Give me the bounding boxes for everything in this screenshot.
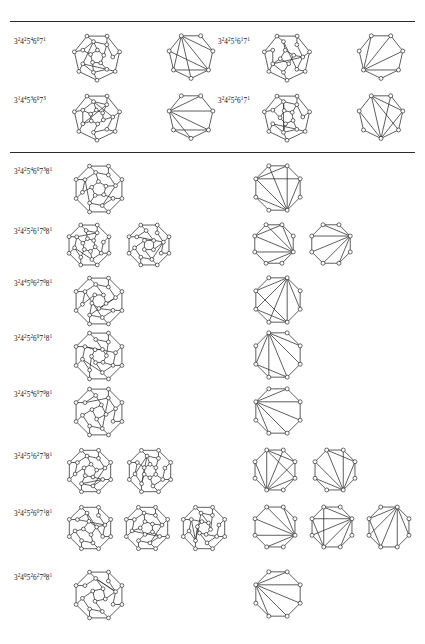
triangulation-graph	[305, 218, 357, 270]
polyhedral-graph	[62, 443, 118, 499]
triangulation-graph	[163, 88, 219, 144]
polyhedral-graph	[258, 28, 316, 86]
polyhedral-graph	[176, 500, 232, 556]
triangulation-graph	[308, 443, 362, 497]
polyhedral-graph	[68, 88, 126, 146]
face-vector-label: 3144536073	[14, 95, 46, 105]
face-vector-label: 324251627381	[14, 451, 52, 461]
polyhedral-graph	[122, 218, 176, 272]
triangulation-graph	[163, 28, 219, 84]
face-vector-label: 324252607181	[14, 333, 52, 343]
polyhedral-graph	[68, 325, 130, 387]
triangulation-graph	[362, 500, 416, 554]
face-vector-label: 324450627081	[14, 278, 52, 288]
polyhedral-graph	[68, 381, 130, 443]
polyhedral-graph	[62, 500, 118, 556]
triangulation-graph	[248, 158, 308, 218]
triangulation-graph	[248, 381, 308, 441]
polyhedral-graph	[62, 218, 116, 272]
polyhedral-graph	[258, 88, 316, 146]
triangulation-graph	[353, 88, 409, 144]
triangulation-graph	[248, 270, 308, 330]
polyhedral-graph	[68, 28, 126, 86]
section-divider-rule	[10, 152, 415, 153]
face-vector-label: 324254607381	[14, 166, 52, 176]
polyhedral-graph	[68, 564, 130, 626]
face-vector-label: 324252607181	[14, 508, 52, 518]
face-vector-label: 324254607081	[14, 389, 52, 399]
face-vector-label: 3242546071	[14, 36, 46, 46]
triangulation-graph	[305, 500, 359, 554]
triangulation-graph	[353, 28, 409, 84]
face-vector-label: 3242516171	[218, 36, 250, 46]
polyhedral-graph	[122, 443, 178, 499]
triangulation-graph	[248, 218, 300, 270]
face-vector-label: 324052627081	[14, 572, 52, 582]
polyhedral-graph	[68, 158, 130, 220]
top-rule	[10, 21, 415, 22]
triangulation-graph	[248, 443, 302, 497]
polyhedral-graph	[68, 270, 130, 332]
polyhedral-graph	[119, 500, 175, 556]
face-vector-label: 324252617081	[14, 226, 52, 236]
triangulation-graph	[248, 564, 308, 624]
triangulation-graph	[248, 325, 308, 385]
face-vector-label: 3242526171	[218, 95, 250, 105]
figure-plate: 3242546071314453607332425161713242526171…	[0, 0, 425, 644]
triangulation-graph	[248, 500, 302, 554]
